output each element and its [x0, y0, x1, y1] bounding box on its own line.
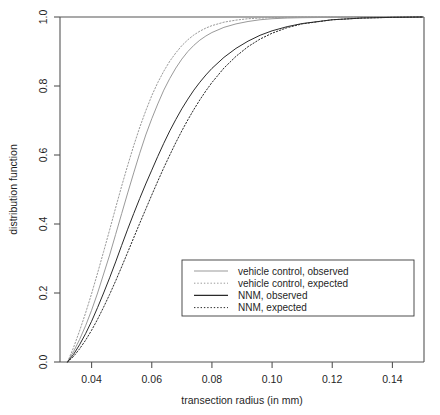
y-tick-label-4: 0.8 — [37, 79, 49, 94]
x-tick-label-0: 0.04 — [81, 373, 102, 385]
y-tick-label-1: 0.2 — [37, 286, 49, 301]
distribution-function-chart: 0.040.060.080.100.120.140.00.20.40.60.81… — [0, 0, 440, 415]
y-axis-title: distribution function — [7, 144, 19, 235]
legend-label-1: vehicle control, expected — [238, 278, 348, 289]
legend-label-0: vehicle control, observed — [238, 266, 349, 277]
y-tick-label-0: 0.0 — [37, 355, 49, 370]
plot-area: 0.040.060.080.100.120.140.00.20.40.60.81… — [7, 10, 424, 406]
x-tick-label-1: 0.06 — [142, 373, 163, 385]
legend-label-2: NNM, observed — [238, 290, 307, 301]
x-tick-label-2: 0.08 — [202, 373, 223, 385]
y-tick-label-5: 1.0 — [37, 10, 49, 25]
x-tick-label-3: 0.10 — [262, 373, 283, 385]
y-tick-label-2: 0.4 — [37, 217, 49, 232]
x-tick-label-4: 0.12 — [322, 373, 343, 385]
legend-label-3: NNM, expected — [238, 302, 307, 313]
x-tick-label-5: 0.14 — [382, 373, 403, 385]
x-axis-title: transection radius (in mm) — [181, 394, 302, 406]
y-tick-label-3: 0.6 — [37, 148, 49, 163]
